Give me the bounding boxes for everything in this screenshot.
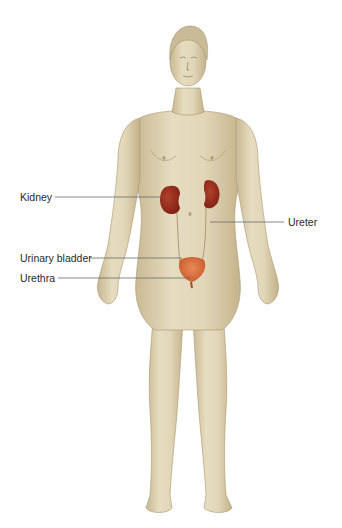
navel — [189, 212, 192, 216]
anatomy-figure — [0, 0, 342, 528]
label-ureter: Ureter — [288, 216, 317, 228]
label-urethra: Urethra — [20, 272, 55, 284]
label-kidney: Kidney — [20, 191, 52, 203]
urethra — [191, 282, 192, 288]
label-urinary-bladder: Urinary bladder — [20, 252, 92, 264]
